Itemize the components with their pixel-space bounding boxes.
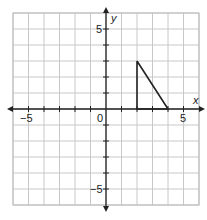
x-tick-pos5: 5 <box>180 112 186 124</box>
y-tick-neg5: −5 <box>90 183 103 195</box>
x-tick-neg5: −5 <box>20 112 33 124</box>
origin-label: 0 <box>97 112 103 124</box>
y-axis-label: y <box>110 12 118 24</box>
coordinate-plane: x y 0 −5 5 5 −5 <box>0 0 207 220</box>
y-tick-pos5: 5 <box>96 23 102 35</box>
axes <box>7 7 205 212</box>
x-axis-label: x <box>192 94 199 106</box>
